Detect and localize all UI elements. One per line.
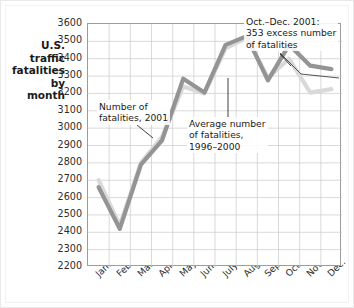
y-axis-tick-label: 3600 — [48, 18, 82, 28]
chart-figure: U.S. traffic fatalities by month 3600350… — [0, 0, 354, 308]
y-axis-tick-label: 2600 — [48, 192, 82, 202]
y-axis-tick-label: 2800 — [48, 157, 82, 167]
y-axis-tick-label: 3100 — [48, 105, 82, 115]
y-axis-tick-label: 3200 — [48, 87, 82, 97]
y-axis-tick-label: 2900 — [48, 140, 82, 150]
annotation-fatalities-2001: Number of fatalities, 2001 — [97, 100, 170, 125]
y-axis-tick-label: 2500 — [48, 209, 82, 219]
y-axis-tick-label: 3000 — [48, 122, 82, 132]
y-axis-tick-label: 3300 — [48, 70, 82, 80]
annotation-average-fatalities: Average number of fatalities, 1996–2000 — [187, 117, 268, 153]
y-axis-tick-label: 2400 — [48, 226, 82, 236]
y-axis-tick-label: 3500 — [48, 35, 82, 45]
y-axis-tick-label: 2700 — [48, 174, 82, 184]
y-axis-tick-label: 2200 — [48, 261, 82, 271]
annotation-excess-fatalities: Oct.–Dec. 2001: 353 excess number of fat… — [244, 15, 338, 51]
y-axis-tick-label: 2300 — [48, 244, 82, 254]
y-axis-tick-label: 3400 — [48, 53, 82, 63]
